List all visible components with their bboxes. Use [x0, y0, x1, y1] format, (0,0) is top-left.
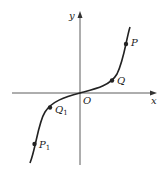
point-q1-subscript: 1 — [63, 109, 67, 117]
point-p1 — [32, 142, 36, 146]
y-axis — [78, 11, 83, 165]
point-p1-subscript: 1 — [46, 144, 50, 152]
point-q1-letter: Q — [55, 104, 63, 115]
point-q1-label: Q1 — [55, 104, 68, 117]
point-q1 — [48, 105, 52, 109]
point-p-label: P — [130, 37, 138, 48]
function-graph: y x O P Q Q1 P1 — [0, 0, 168, 170]
point-q — [110, 78, 114, 82]
point-q-label: Q — [117, 75, 125, 86]
y-axis-label: y — [68, 10, 75, 21]
y-axis-arrow-icon — [78, 11, 83, 18]
x-axis-label: x — [151, 95, 157, 106]
origin-label: O — [83, 95, 91, 106]
point-p — [124, 42, 128, 46]
point-p1-label: P1 — [38, 139, 50, 152]
